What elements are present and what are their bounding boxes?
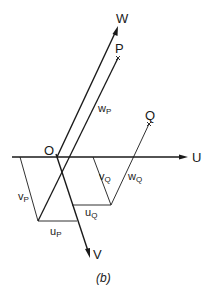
point-p-label: P [115,41,124,56]
w-axis-label: W [116,11,129,26]
v-axis-label: V [93,247,102,262]
u-q-label: uQ [85,206,97,220]
w-p-label: wP [97,102,111,116]
w-axis: W [57,11,129,157]
v-q-label: vQ [99,170,111,184]
v-p-label: vP [18,190,29,204]
point-p-construction: P wP vP uP [18,41,124,239]
origin-label: O [44,143,54,158]
v-arrow-icon [85,248,90,258]
u-axis: U [12,150,201,165]
w-q-label: wQ [127,170,142,184]
figure-caption: (b) [96,271,111,285]
w-q-line [111,124,149,205]
v-p-line [20,157,38,221]
u-arrow-icon [179,155,188,160]
u-p-label: uP [50,225,61,239]
oblique-coordinate-diagram: U W V O P wP vP uP Q vQ [0,0,209,287]
point-q-construction: Q vQ wQ uQ [72,108,155,220]
u-axis-label: U [192,150,201,165]
w-arrow-icon [113,26,119,36]
point-q-label: Q [145,108,155,123]
w-p-line [38,58,118,221]
